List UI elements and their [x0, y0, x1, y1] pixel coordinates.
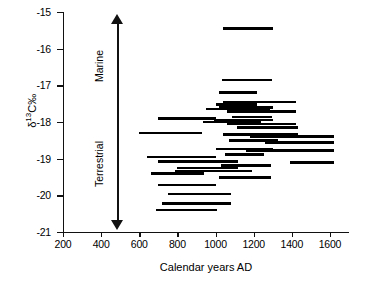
- x-tick-label-4: 1000: [198, 239, 234, 250]
- data-bar: [246, 149, 334, 152]
- data-bar: [151, 172, 204, 175]
- x-tick: [101, 232, 102, 237]
- x-tick-label-7: 1600: [312, 239, 348, 250]
- data-bar: [162, 202, 231, 205]
- y-tick-label-5: -20: [25, 190, 51, 201]
- data-bar: [227, 123, 296, 126]
- marine-direction-label: Marine: [93, 36, 105, 96]
- x-axis-title: Calendar years AD: [63, 261, 349, 273]
- data-bar: [250, 135, 334, 138]
- data-bar: [232, 116, 272, 119]
- data-bar: [219, 91, 256, 94]
- data-bar: [290, 161, 334, 164]
- terrestrial-direction-label: Terrestrial: [93, 129, 105, 199]
- data-bar: [147, 156, 216, 159]
- y-axis-title-superscript: 13: [24, 113, 33, 122]
- data-bar: [225, 153, 264, 156]
- x-tick-label-6: 1400: [274, 239, 310, 250]
- data-bar: [237, 126, 298, 129]
- x-tick: [254, 232, 255, 237]
- x-tick: [139, 232, 140, 237]
- x-tick-label-0: 200: [45, 239, 81, 250]
- arrow-shaft-icon: [117, 22, 119, 222]
- arrow-down-icon: [111, 220, 123, 230]
- arrow-up-icon: [111, 14, 123, 24]
- data-bar: [223, 27, 273, 30]
- chart-figure: -15-16-17-18-19-20-21 200400600800100012…: [0, 0, 381, 283]
- x-tick-label-1: 400: [83, 239, 119, 250]
- x-tick: [63, 232, 64, 237]
- y-axis-title: δ13C‰: [24, 66, 38, 156]
- y-axis-title-delta: δ: [26, 122, 38, 128]
- data-bar: [222, 79, 272, 82]
- x-tick-label-2: 600: [121, 239, 157, 250]
- x-tick: [330, 232, 331, 237]
- x-tick-label-5: 1200: [236, 239, 272, 250]
- data-bar: [158, 160, 238, 163]
- data-bar: [139, 132, 202, 135]
- y-tick-label-1: -16: [25, 44, 51, 55]
- data-bar: [156, 209, 217, 212]
- data-bar: [219, 176, 270, 179]
- x-tick: [216, 232, 217, 237]
- data-bar: [158, 184, 215, 187]
- x-tick-label-3: 800: [159, 239, 195, 250]
- y-tick-label-6: -21: [25, 227, 51, 238]
- data-bar: [227, 110, 296, 113]
- y-axis-title-rest: C‰: [26, 94, 38, 113]
- x-tick: [292, 232, 293, 237]
- y-tick-label-0: -15: [25, 7, 51, 18]
- data-bar: [265, 141, 334, 144]
- x-tick: [177, 232, 178, 237]
- data-bar: [168, 193, 231, 196]
- data-bar: [158, 117, 215, 120]
- direction-annotation: Marine Terrestrial: [86, 12, 130, 232]
